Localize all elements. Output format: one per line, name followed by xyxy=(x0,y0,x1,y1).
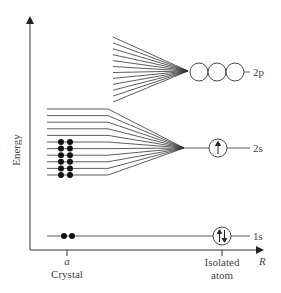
isolated-atom-label-line1: Isolated xyxy=(205,256,240,268)
electron-2s xyxy=(67,159,73,165)
orbital-2p-2 xyxy=(208,63,226,81)
band-2p-line xyxy=(113,71,188,90)
electrons-2s xyxy=(58,139,73,178)
electron-2s xyxy=(67,165,73,171)
x-axis-label: R xyxy=(258,255,266,267)
orbital-2p-3 xyxy=(226,63,244,81)
isolated-atom-label-line2: atom xyxy=(211,269,233,281)
electron-2s xyxy=(58,172,64,178)
band-formation-diagram: 2p 2s 1s Energy R a Crystal Isolated ato… xyxy=(0,0,281,293)
level-label-2p: 2p xyxy=(253,66,265,78)
y-axis-label: Energy xyxy=(10,134,22,166)
electron-2s xyxy=(58,165,64,171)
crystal-spacing-symbol: a xyxy=(64,255,70,267)
band-2s-line xyxy=(47,148,184,168)
electron-2s xyxy=(67,146,73,152)
orbitals-2p xyxy=(190,63,244,81)
electron-2s xyxy=(58,139,64,145)
band-2p xyxy=(113,37,188,102)
electron-2s xyxy=(67,152,73,158)
electron-2s xyxy=(67,139,73,145)
electron-1s-2 xyxy=(69,233,75,239)
orbital-2p-1 xyxy=(190,63,208,81)
electron-2s xyxy=(58,152,64,158)
band-2s-line xyxy=(47,129,184,148)
electron-2s xyxy=(58,159,64,165)
axes xyxy=(30,18,262,256)
band-2p-line xyxy=(113,49,188,71)
orbital-1s xyxy=(213,227,231,245)
level-label-2s: 2s xyxy=(253,142,263,154)
band-2p-line xyxy=(113,71,188,102)
crystal-label: Crystal xyxy=(51,268,83,280)
electron-2s xyxy=(58,146,64,152)
electron-1s-1 xyxy=(61,233,67,239)
electron-2s xyxy=(67,172,73,178)
level-label-1s: 1s xyxy=(253,230,263,242)
